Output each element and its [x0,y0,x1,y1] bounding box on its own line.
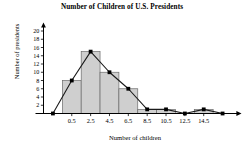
y-axis-tick-label: 14 [33,53,39,59]
data-point-marker [89,50,93,54]
y-axis-ticks: 2468101214161820 [33,28,43,108]
data-point-marker [51,112,55,116]
y-axis-tick-label: 18 [33,36,39,42]
data-point-marker [70,79,74,83]
x-axis-tick-label: 12.5 [179,117,190,124]
chart-plot-area: 24681012141618200.52.54.56.58.510.512.51… [0,0,244,152]
y-axis-tick-label: 12 [33,61,39,67]
chart-container: Number of Children of U.S. Presidents Nu… [0,0,244,152]
data-point-marker [126,87,130,91]
data-point-marker [221,112,225,116]
y-axis-tick-label: 4 [36,94,39,100]
x-axis-ticks: 0.52.54.56.58.510.512.514.5 [68,114,210,124]
data-point-marker [164,107,168,111]
y-axis-tick-label: 6 [36,86,39,92]
x-axis-tick-label: 2.5 [87,117,95,124]
data-point-marker [202,107,206,111]
y-axis-tick-label: 10 [33,69,39,75]
y-axis-tick-label: 20 [33,28,39,34]
y-axis-tick-label: 8 [36,78,39,84]
x-axis-tick-label: 4.5 [105,117,113,124]
x-axis-tick-label: 8.5 [143,117,151,124]
histogram-bar [119,89,138,114]
y-axis-tick-label: 2 [36,102,39,108]
data-point-marker [108,70,112,74]
histogram-bar [62,81,81,114]
y-axis-tick-label: 16 [33,45,39,51]
x-axis-tick-label: 6.5 [124,117,132,124]
data-point-marker [145,107,149,111]
data-point-marker [183,112,187,116]
x-axis-tick-label: 10.5 [160,117,171,124]
x-axis-tick-label: 0.5 [68,117,76,124]
x-axis-tick-label: 14.5 [198,117,209,124]
